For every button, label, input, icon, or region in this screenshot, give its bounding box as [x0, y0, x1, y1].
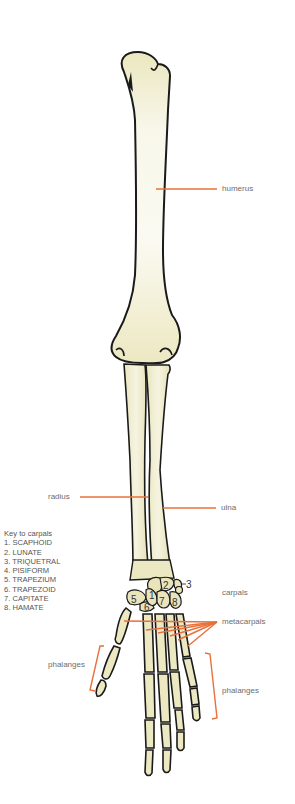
metacarpal-leader-1	[124, 621, 217, 622]
carpal-key-item: 2. LUNATE	[4, 548, 60, 557]
label-ulna: ulna	[221, 504, 236, 512]
carpal-key-item: 7. CAPITATE	[4, 594, 60, 603]
carpal-key-item: 5. TRAPEZIUM	[4, 575, 60, 584]
carpal-number-1: 1	[149, 590, 155, 601]
carpal-key: Key to carpals 1. SCAPHOID 2. LUNATE 3. …	[4, 529, 60, 613]
carpal-number-6: 6	[144, 602, 150, 613]
label-radius: radius	[48, 493, 70, 501]
carpal-number-2: 2	[163, 580, 169, 591]
hand-bones	[96, 608, 200, 776]
label-phalanges-fingers: phalanges	[222, 687, 259, 695]
phalanges-fingers-bracket	[205, 653, 217, 719]
carpal-key-item: 3. TRIQUETRAL	[4, 557, 60, 566]
carpal-number-3: 3	[186, 579, 192, 590]
label-phalanges-thumb: phalanges	[48, 661, 85, 669]
carpal-key-item: 1. SCAPHOID	[4, 538, 60, 547]
ulna-bone	[146, 365, 170, 568]
radius-bone	[124, 364, 148, 568]
carpal-number-5: 5	[131, 594, 137, 605]
label-humerus: humerus	[222, 185, 253, 193]
label-metacarpals: metacarpals	[222, 618, 266, 626]
carpal-key-item: 4. PISIFORM	[4, 566, 60, 575]
carpal-key-title: Key to carpals	[4, 529, 60, 538]
humerus-bone	[112, 52, 181, 363]
arm-skeleton-diagram: 1 2 3 5 6 7 8	[0, 0, 295, 804]
label-carpals: carpals	[222, 589, 248, 597]
carpal-number-8: 8	[172, 597, 178, 608]
carpal-key-item: 6. TRAPEZOID	[4, 585, 60, 594]
carpal-key-item: 8. HAMATE	[4, 603, 60, 612]
carpal-number-7: 7	[159, 596, 165, 607]
